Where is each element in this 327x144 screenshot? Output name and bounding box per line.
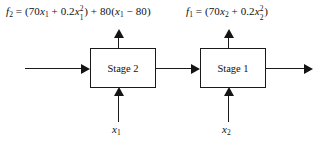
formula-f1-term1-coefficient: 70 xyxy=(209,5,220,17)
formula-f1-term2-coefficient: 0.2 xyxy=(241,5,255,17)
stage-2-output-arrowhead-icon xyxy=(114,29,124,38)
stage-1-output-arrowhead-icon xyxy=(224,29,234,38)
stage-2-output-line xyxy=(118,38,119,49)
stage-2-input-line xyxy=(118,96,119,122)
output-flow-line xyxy=(266,68,305,69)
stage-box-stage-2[interactable]: Stage 2 xyxy=(90,48,156,88)
formula-f2-term3-coefficient: 80 xyxy=(100,5,111,17)
formula-f2-term1-subscript: 1 xyxy=(45,10,49,19)
formula-f2-lhs-subscript: 2 xyxy=(9,10,13,19)
formula-f2-term3-constant: 80 xyxy=(136,5,147,17)
formula-f1-close-paren: ) xyxy=(264,5,268,17)
diagram-canvas: f2 = (70x1 + 0.2x21) + 80(x1 − 80) f1 = … xyxy=(0,0,327,144)
formula-f1-term2-subscript: 2 xyxy=(260,14,264,22)
formula-f2-plus-2: + xyxy=(91,5,97,17)
interstage-flow-arrowhead-icon xyxy=(191,64,200,74)
stage-box-stage-1[interactable]: Stage 1 xyxy=(200,48,266,88)
formula-f2-term2-subscript: 1 xyxy=(80,14,84,22)
stage-1-input-arrowhead-icon xyxy=(224,87,234,96)
formula-f1-equals: = xyxy=(196,5,202,17)
formula-f2: f2 = (70x1 + 0.2x21) + 80(x1 − 80) xyxy=(6,6,151,19)
formula-f2-close-paren: ) xyxy=(84,5,88,17)
interstage-flow-line xyxy=(156,68,192,69)
formula-f2-term2-superscript: 2 xyxy=(80,5,84,13)
formula-f2-term1-coefficient: 70 xyxy=(29,5,40,17)
stage-box-stage-2-label: Stage 2 xyxy=(107,63,138,74)
stage-1-input-line xyxy=(228,96,229,122)
input-label-x1-subscript: 1 xyxy=(117,128,121,137)
formula-f1-lhs-subscript: 1 xyxy=(189,10,193,19)
formula-f2-plus-1: + xyxy=(52,5,58,17)
formula-f1: f1 = (70x2 + 0.2x22) xyxy=(186,6,268,19)
input-flow-line xyxy=(25,68,82,69)
formula-f2-term2-coefficient: 0.2 xyxy=(61,5,75,17)
stage-2-input-arrowhead-icon xyxy=(114,87,124,96)
formula-f2-term3-close-paren: ) xyxy=(147,5,151,17)
formula-f2-term3-subscript: 1 xyxy=(120,10,124,19)
output-flow-arrowhead-icon xyxy=(304,64,313,74)
input-label-x2: x2 xyxy=(222,124,231,137)
formula-f1-term1-subscript: 2 xyxy=(225,10,229,19)
stage-box-stage-1-label: Stage 1 xyxy=(217,63,248,74)
formula-f1-term2-superscript: 2 xyxy=(260,5,264,13)
input-label-x2-subscript: 2 xyxy=(227,128,231,137)
formula-f1-plus-1: + xyxy=(232,5,238,17)
input-label-x1: x1 xyxy=(112,124,121,137)
stage-1-output-line xyxy=(228,38,229,49)
formula-f2-minus: − xyxy=(127,5,133,17)
formula-f2-equals: = xyxy=(16,5,22,17)
input-flow-arrowhead-icon xyxy=(81,64,90,74)
